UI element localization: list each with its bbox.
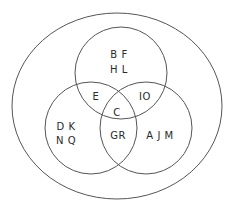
region-top-only-line2: H L [110,64,128,75]
region-left-only-line2: N Q [56,135,76,146]
region-top-left: E [93,91,100,102]
region-left-only-line1: D K [57,121,76,132]
region-top-right: IO [139,91,151,102]
region-left-right: GR [110,130,126,141]
region-all-three: C [113,107,120,118]
region-right-only: A J M [146,130,173,141]
venn-diagram: B F H L E IO C D K N Q GR A J M [0,0,229,211]
region-top-only-line1: B F [110,49,127,60]
outer-ellipse [12,13,222,199]
